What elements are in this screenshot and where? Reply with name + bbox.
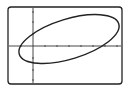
graph-window — [0, 0, 130, 92]
ellipse-curve — [13, 5, 124, 74]
